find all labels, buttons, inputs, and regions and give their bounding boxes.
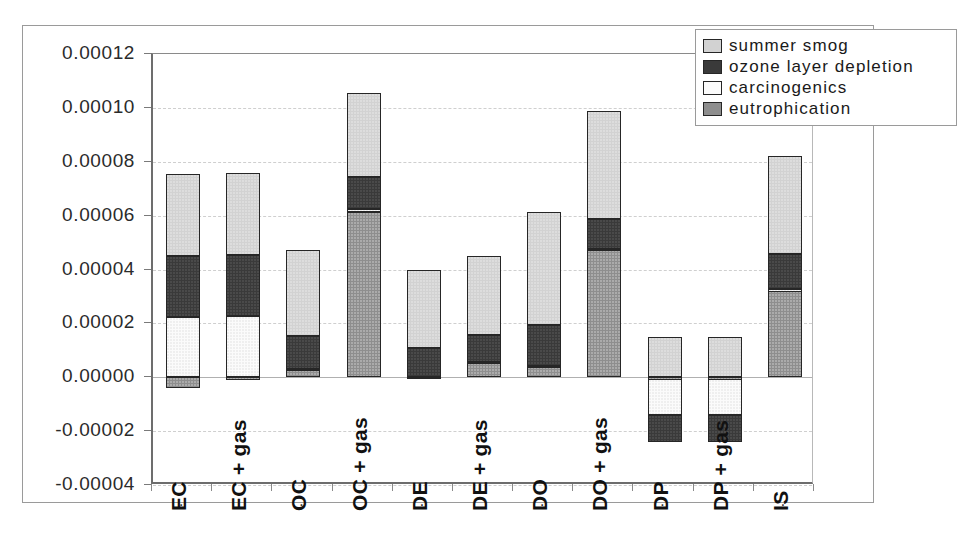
bar-segment[interactable] — [527, 212, 561, 325]
bar-segment[interactable] — [166, 377, 200, 388]
legend-item-label: carcinogenics — [729, 78, 847, 98]
x-axis-tick-mark — [211, 484, 212, 491]
bar-segment[interactable] — [648, 337, 682, 377]
x-axis-tick-mark — [512, 484, 513, 491]
bar-stack[interactable] — [226, 54, 260, 482]
y-axis-tick-label: 0.00002 — [23, 311, 135, 333]
x-axis-tick-label: DE + gas — [468, 419, 492, 511]
bar-segment[interactable] — [166, 256, 200, 317]
bar-segment[interactable] — [467, 335, 501, 361]
x-axis-minor-dot: · — [178, 496, 183, 514]
bar-segment[interactable] — [708, 337, 742, 377]
bar-stack[interactable] — [166, 54, 200, 482]
bar-segment[interactable] — [347, 93, 381, 177]
x-axis-tick-mark — [452, 484, 453, 491]
bar-segment[interactable] — [407, 377, 441, 380]
y-axis-tick-label: 0.00004 — [23, 258, 135, 280]
bar-segment[interactable] — [648, 415, 682, 442]
x-axis-minor-dot: · — [540, 496, 545, 514]
bar-segment[interactable] — [286, 250, 320, 336]
bar-segment[interactable] — [407, 348, 441, 376]
bar-segment[interactable] — [587, 249, 621, 377]
bar-segment[interactable] — [768, 290, 802, 378]
bar-segment[interactable] — [587, 219, 621, 249]
x-axis-tick-mark — [572, 484, 573, 491]
x-axis-tick-mark — [332, 484, 333, 491]
x-axis-tick-mark — [813, 484, 814, 491]
legend-swatch-icon — [703, 81, 722, 95]
bar-segment[interactable] — [166, 317, 200, 377]
legend-item[interactable]: summer smog — [703, 35, 948, 56]
bar-segment[interactable] — [768, 156, 802, 254]
legend-item[interactable]: ozone layer depletion — [703, 56, 948, 77]
bar-stack[interactable] — [648, 54, 682, 482]
x-axis-tick-label: EC + gas — [227, 419, 251, 511]
bar-stack[interactable] — [286, 54, 320, 482]
bar-segment[interactable] — [226, 377, 260, 380]
y-axis-tick-label: -0.00004 — [23, 473, 135, 495]
bar-stack[interactable] — [527, 54, 561, 482]
bar-segment[interactable] — [467, 362, 501, 377]
chart-object-frame: 0.000120.000100.000080.000060.000040.000… — [22, 25, 874, 503]
bar-segment[interactable] — [708, 379, 742, 415]
legend-item[interactable]: eutrophication — [703, 98, 948, 119]
x-axis-minor-dot: · — [780, 496, 785, 514]
legend-item[interactable]: carcinogenics — [703, 77, 948, 98]
y-axis-tick-label: 0.00012 — [23, 42, 135, 64]
bar-segment[interactable] — [768, 289, 802, 292]
x-axis-tick-mark — [753, 484, 754, 491]
bar-segment[interactable] — [226, 173, 260, 255]
bar-stack[interactable] — [467, 54, 501, 482]
x-axis-minor-dot: · — [419, 496, 424, 514]
legend-swatch-icon — [703, 60, 722, 74]
x-axis-tick-mark — [151, 484, 152, 491]
x-axis-tick-mark — [693, 484, 694, 491]
y-axis-tick-label: 0.00006 — [23, 204, 135, 226]
bar-segment[interactable] — [527, 325, 561, 366]
y-axis-tick-mark — [144, 484, 151, 485]
bar-segment[interactable] — [648, 379, 682, 415]
bar-segment[interactable] — [587, 111, 621, 219]
legend-swatch-icon — [703, 102, 722, 116]
legend-item-label: ozone layer depletion — [729, 57, 914, 77]
x-axis-tick-mark — [392, 484, 393, 491]
bar-segment[interactable] — [226, 255, 260, 316]
bar-segment[interactable] — [467, 256, 501, 335]
y-axis-tick-mark — [144, 215, 151, 216]
y-axis-tick-mark — [144, 322, 151, 323]
bar-segment[interactable] — [347, 209, 381, 212]
legend-item-label: summer smog — [729, 36, 849, 56]
y-axis-tick-mark — [144, 430, 151, 431]
chart-legend: summer smogozone layer depletioncarcinog… — [695, 29, 957, 126]
bar-segment[interactable] — [527, 366, 561, 369]
bar-segment[interactable] — [467, 362, 501, 365]
x-axis-tick-label: DO + gas — [588, 417, 612, 511]
y-axis-tick-mark — [144, 53, 151, 54]
y-axis-tick-mark — [144, 376, 151, 377]
y-axis-tick-mark — [144, 161, 151, 162]
x-axis-tick-mark — [632, 484, 633, 491]
bar-segment[interactable] — [407, 270, 441, 349]
x-axis-minor-dot: · — [660, 496, 665, 514]
x-axis-minor-dot: · — [299, 496, 304, 514]
bar-stack[interactable] — [407, 54, 441, 482]
y-axis-tick-label: 0.00010 — [23, 96, 135, 118]
bar-segment[interactable] — [226, 316, 260, 377]
bar-segment[interactable] — [347, 212, 381, 378]
x-axis-tick-mark — [271, 484, 272, 491]
bar-segment[interactable] — [768, 254, 802, 289]
y-axis-tick-label: 0.00008 — [23, 150, 135, 172]
y-axis-tick-mark — [144, 269, 151, 270]
bar-segment[interactable] — [286, 336, 320, 369]
y-axis-tick-mark — [144, 107, 151, 108]
x-axis-tick-label: DP + gas — [709, 420, 733, 511]
y-axis-tick-label: -0.00002 — [23, 419, 135, 441]
legend-item-label: eutrophication — [729, 99, 851, 119]
x-axis-tick-label: OC + gas — [348, 417, 372, 511]
bar-segment[interactable] — [347, 177, 381, 209]
legend-swatch-icon — [703, 39, 722, 53]
bar-segment[interactable] — [286, 369, 320, 372]
y-axis-tick-label: 0.00000 — [23, 365, 135, 387]
bar-segment[interactable] — [587, 249, 621, 252]
bar-segment[interactable] — [166, 174, 200, 256]
